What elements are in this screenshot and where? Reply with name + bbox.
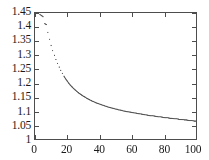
- y-axis-tick-right-4: [192, 84, 196, 85]
- x-axis-tick-bottom-3: [132, 135, 133, 139]
- y-axis-tick-labels: 11.051.11.151.21.251.31.351.41.45: [0, 0, 31, 160]
- y-tick-label-4: 1.2: [17, 77, 31, 89]
- y-axis-tick-right-5: [192, 69, 196, 70]
- y-axis-tick-right-8: [192, 27, 196, 28]
- x-axis-tick-top-0: [35, 13, 36, 17]
- y-tick-label-8: 1.4: [17, 20, 31, 32]
- x-tick-label-4: 80: [159, 144, 170, 156]
- y-axis-tick-left-4: [35, 84, 39, 85]
- y-tick-label-3: 1.15: [12, 91, 31, 103]
- x-tick-label-5: 100: [185, 144, 202, 156]
- x-tick-label-0: 0: [31, 144, 37, 156]
- y-axis-tick-left-5: [35, 69, 39, 70]
- x-tick-label-1: 20: [61, 144, 72, 156]
- chart-figure: 11.051.11.151.21.251.31.351.41.45 020406…: [0, 0, 209, 160]
- x-axis-tick-top-3: [132, 13, 133, 17]
- x-axis-tick-top-2: [100, 13, 101, 17]
- x-tick-label-2: 40: [94, 144, 105, 156]
- x-axis-tick-bottom-4: [165, 135, 166, 139]
- y-axis-tick-left-7: [35, 41, 39, 42]
- x-axis-tick-top-4: [165, 13, 166, 17]
- y-tick-label-6: 1.3: [17, 49, 31, 61]
- data-series-canvas: [35, 13, 196, 139]
- y-tick-label-9: 1.45: [12, 6, 31, 18]
- x-axis-tick-bottom-1: [67, 135, 68, 139]
- y-axis-tick-right-3: [192, 98, 196, 99]
- y-axis-tick-left-3: [35, 98, 39, 99]
- y-axis-tick-right-7: [192, 41, 196, 42]
- x-axis-tick-bottom-0: [35, 135, 36, 139]
- y-axis-tick-right-9: [192, 13, 196, 14]
- y-axis-tick-left-6: [35, 55, 39, 56]
- x-tick-label-3: 60: [126, 144, 137, 156]
- y-axis-tick-right-2: [192, 112, 196, 113]
- y-tick-label-2: 1.1: [17, 106, 31, 118]
- y-axis-tick-left-1: [35, 126, 39, 127]
- y-tick-label-7: 1.35: [12, 34, 31, 46]
- x-axis-tick-bottom-2: [100, 135, 101, 139]
- y-axis-tick-left-8: [35, 27, 39, 28]
- y-tick-label-1: 1.05: [12, 120, 31, 132]
- y-axis-tick-right-6: [192, 55, 196, 56]
- plot-area: [34, 12, 197, 140]
- y-axis-tick-left-9: [35, 13, 39, 14]
- x-axis-tick-labels: 020406080100: [0, 144, 209, 160]
- x-axis-tick-top-1: [67, 13, 68, 17]
- y-axis-tick-right-1: [192, 126, 196, 127]
- y-tick-label-5: 1.25: [12, 63, 31, 75]
- y-axis-tick-left-2: [35, 112, 39, 113]
